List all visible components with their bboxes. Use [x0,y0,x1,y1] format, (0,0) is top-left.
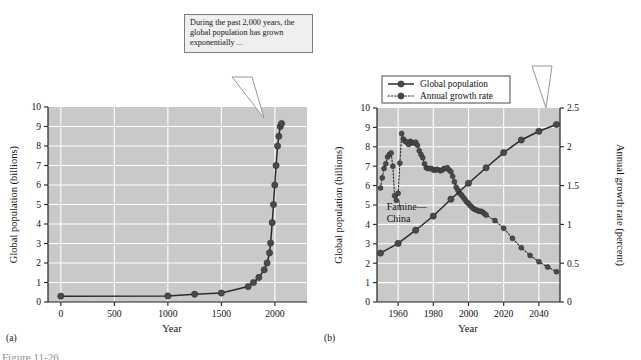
data-point [266,250,272,256]
svg-text:0: 0 [365,296,370,307]
data-point [383,161,388,166]
svg-text:Global population (billions): Global population (billions) [333,146,345,264]
data-point [519,245,524,250]
svg-text:0: 0 [567,296,572,307]
data-point [218,290,224,296]
data-point [450,174,455,179]
svg-text:7: 7 [36,160,41,171]
data-point [250,279,256,285]
data-point [270,201,276,207]
svg-text:6: 6 [36,179,41,190]
svg-text:0: 0 [36,296,41,307]
data-point [377,250,383,256]
svg-text:Year: Year [458,323,478,334]
data-point [245,283,251,289]
svg-text:1980: 1980 [424,308,443,319]
data-point [268,240,274,246]
svg-text:8: 8 [36,140,41,151]
data-point [448,169,453,174]
svg-text:2: 2 [365,258,370,269]
panel-a-chart: 0123456789100500100015002000YearGlobal p… [0,0,320,360]
svg-text:1: 1 [567,219,572,230]
data-point [390,164,395,169]
svg-text:2: 2 [567,141,572,152]
panel-b: 01234567891000.511.522.51960198020002020… [320,0,641,360]
svg-text:3: 3 [36,238,41,249]
svg-text:8: 8 [365,141,370,152]
svg-text:1.5: 1.5 [567,180,579,191]
panel-b-chart: 01234567891000.511.522.51960198020002020… [320,0,641,360]
data-point [536,128,542,134]
legend-marker-growth [398,93,404,99]
svg-text:2040: 2040 [529,308,548,319]
svg-text:10: 10 [360,102,370,113]
data-point [483,165,489,171]
svg-text:9: 9 [365,122,370,133]
callout-b-pointer [532,66,552,108]
svg-text:0.5: 0.5 [567,258,579,269]
svg-text:Annual growth rate (percent): Annual growth rate (percent) [614,144,626,267]
data-point [501,150,507,156]
data-point [389,151,394,156]
svg-text:2000: 2000 [459,308,478,319]
data-point [420,155,425,160]
data-point [395,240,401,246]
legend-label-population: Global population [420,79,488,89]
data-point [484,213,489,218]
data-point [465,180,471,186]
data-point [553,121,559,127]
svg-text:2: 2 [36,257,41,268]
svg-text:7: 7 [365,161,370,172]
svg-text:1000: 1000 [158,308,177,319]
data-point [430,213,436,219]
data-point [278,120,284,126]
svg-text:1960: 1960 [389,308,408,319]
data-point [415,143,420,148]
svg-text:Global population (billions): Global population (billions) [8,145,20,263]
data-point [510,236,515,241]
svg-text:Year: Year [162,323,182,334]
famine-label: Famine— [387,201,428,212]
panel-a-tag: (a) [6,333,17,343]
data-point [380,175,385,180]
data-point [192,291,198,297]
figure-root: 0123456789100500100015002000YearGlobal p… [0,0,641,360]
data-point [273,162,279,168]
svg-text:10: 10 [31,101,41,112]
data-point [58,293,64,299]
data-point [274,143,280,149]
data-point [382,166,387,171]
svg-text:500: 500 [107,308,122,319]
svg-text:0: 0 [58,308,63,319]
legend-label-growth: Annual growth rate [420,91,493,101]
data-point [528,253,533,258]
data-point [536,259,541,264]
data-point [165,293,171,299]
data-point [264,260,270,266]
data-point [399,131,404,136]
svg-text:2.5: 2.5 [567,102,579,113]
panel-b-tag: (b) [324,333,335,343]
callout-a: During the past 2,000 years, the global … [184,14,313,53]
data-point [448,196,454,202]
data-point [518,137,524,143]
svg-text:3: 3 [365,238,370,249]
data-point [378,185,383,190]
data-point [269,220,275,226]
data-point [261,267,267,273]
data-point [396,191,401,196]
figure-caption: Figure 11-26 [2,351,59,360]
svg-text:2000: 2000 [265,308,284,319]
svg-text:1: 1 [365,277,370,288]
data-point [272,182,278,188]
data-point [501,226,506,231]
svg-text:5: 5 [36,199,41,210]
svg-text:2020: 2020 [494,308,513,319]
data-point [452,179,457,184]
svg-text:4: 4 [365,219,370,230]
svg-text:9: 9 [36,121,41,132]
china-label: China [387,213,411,224]
data-point [554,269,559,274]
svg-text:1500: 1500 [212,308,231,319]
data-point [276,133,282,139]
